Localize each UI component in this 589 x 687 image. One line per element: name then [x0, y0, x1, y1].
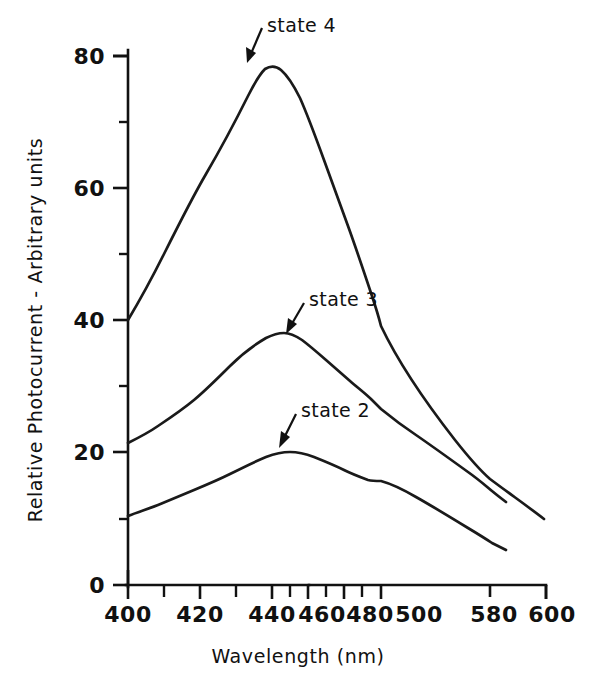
x-tick-label-580: 580 — [470, 602, 517, 627]
x-tick-label-600: 600 — [528, 602, 575, 627]
annotation-state-3: state 3 — [286, 288, 378, 334]
axes-group — [113, 50, 546, 599]
state-2-arrowhead-icon — [279, 431, 290, 448]
chart-canvas: 80 60 40 20 0 400 420 — [0, 0, 589, 687]
x-tick-label-460: 460 — [298, 602, 345, 627]
y-tick-label-20: 20 — [73, 440, 105, 465]
y-axis-tick-labels: 80 60 40 20 0 — [73, 44, 105, 598]
series-label-state-3: state 3 — [309, 288, 378, 310]
y-tick-label-60: 60 — [73, 176, 105, 201]
x-tick-label-480: 480 — [346, 602, 393, 627]
annotation-state-2: state 2 — [279, 399, 370, 448]
x-tick-label-440: 440 — [248, 602, 295, 627]
x-tick-label-500: 500 — [395, 602, 442, 627]
x-axis-tick-labels: 400 420 440 460 480 500 580 600 — [104, 602, 575, 627]
x-tick-label-400: 400 — [104, 602, 151, 627]
x-axis-title: Wavelength (nm) — [211, 645, 384, 667]
photocurrent-spectrum-figure: 80 60 40 20 0 400 420 — [0, 0, 589, 687]
curve-state-2 — [128, 452, 506, 550]
state-3-arrowhead-icon — [286, 318, 297, 334]
state-4-arrowhead-icon — [246, 47, 256, 63]
y-tick-label-0: 0 — [89, 573, 105, 598]
x-tick-label-420: 420 — [176, 602, 223, 627]
y-tick-label-40: 40 — [73, 308, 105, 333]
annotation-state-4: state 4 — [246, 14, 336, 63]
series-label-state-4: state 4 — [267, 14, 336, 36]
y-axis-ticks — [113, 56, 128, 585]
series-label-state-2: state 2 — [301, 399, 370, 421]
y-tick-label-80: 80 — [73, 44, 105, 69]
y-axis-title: Relative Photocurrent - Arbitrary units — [24, 138, 46, 523]
